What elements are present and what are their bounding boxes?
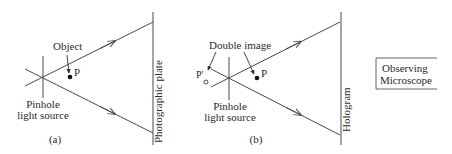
photographic-plate-label: Photographic plate — [152, 60, 164, 143]
double-image-pointer-p-prime-icon — [208, 52, 216, 70]
ray-arrow-icon — [286, 108, 301, 116]
object-label: Object — [53, 40, 82, 52]
virtual-image-point-p-prime — [204, 80, 208, 84]
upper-ray-a — [25, 22, 153, 86]
caption-a: (a) — [49, 133, 62, 146]
microscope-label-line2: Microscope — [380, 74, 432, 86]
caption-b: (b) — [250, 133, 263, 146]
point-p-label-a: P — [74, 66, 80, 78]
panel-a — [25, 12, 153, 145]
ray-arrow-icon — [100, 107, 115, 115]
double-image-pointer-p-icon — [244, 52, 254, 74]
source-label-b-line2: light source — [204, 111, 256, 123]
panel-b — [204, 12, 341, 145]
source-label-a-line2: light source — [17, 109, 69, 121]
double-image-label: Double image — [209, 39, 271, 51]
holography-diagram: Object P Pinhole light source (a) Photog… — [0, 0, 452, 154]
upper-ray-b — [211, 22, 340, 87]
ray-arrow-icon — [100, 41, 115, 49]
point-p-label-b: P — [261, 67, 267, 79]
image-point-p — [255, 76, 260, 81]
point-p-prime-label: P' — [196, 69, 204, 80]
hologram-label: Hologram — [340, 87, 352, 132]
ray-arrow-icon — [286, 42, 301, 50]
microscope-label-line1: Observing — [382, 62, 428, 74]
object-point-p — [68, 75, 73, 80]
